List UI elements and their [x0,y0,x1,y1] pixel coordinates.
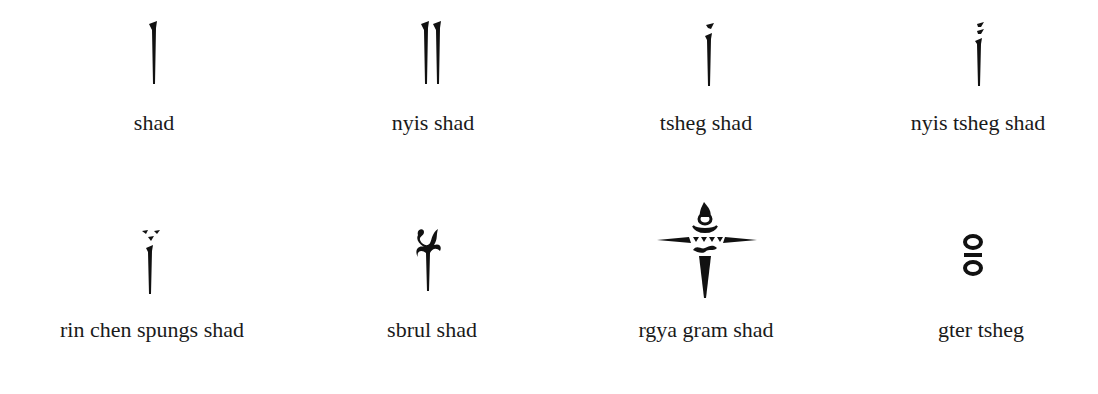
symbol-label: tsheg shad [660,110,752,136]
symbol-label: rin chen spungs shad [60,317,244,343]
nyis-tsheg-shad-glyph-icon [972,22,988,88]
gter-tsheg-glyph-icon [960,233,986,279]
tsheg-shad-glyph-icon [702,22,718,88]
rin-chen-spungs-shad-glyph-icon [140,230,162,296]
symbol-label: gter tsheg [938,317,1024,343]
symbol-label: shad [134,110,174,136]
symbol-label: rgya gram shad [638,317,773,343]
sbrul-shad-glyph-icon [414,227,444,295]
symbol-label: nyis tsheg shad [911,110,1045,136]
symbol-label: sbrul shad [387,317,477,343]
shad-glyph-icon [146,20,162,86]
nyis-shad-glyph-icon [419,20,447,86]
rgya-gram-shad-glyph-icon [655,200,759,300]
symbol-label: nyis shad [392,110,475,136]
